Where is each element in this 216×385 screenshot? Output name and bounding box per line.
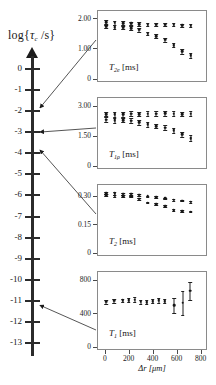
error-bar-cap [172,298,176,299]
y-tick-label-3: 0 [57,343,91,351]
y-tick-3 [93,313,97,314]
error-bar-cap [155,38,159,39]
log-axis-tick [25,110,40,112]
error-bar-cap [189,58,193,59]
log-axis-tick [25,194,40,196]
y-tick-2 [93,224,97,225]
data-point [113,113,116,116]
data-point [164,112,167,115]
error-bar-cap [180,116,184,117]
data-point [155,23,158,26]
log-axis-tick [25,173,40,175]
error-bar-cap [155,128,159,129]
log-axis-line [31,56,34,356]
log-axis-tick [25,342,40,344]
log-axis-tick [25,279,40,281]
panel-label-t2-subscript: 2 [114,241,117,247]
error-bar-cap [163,42,167,43]
error-bar-cap [155,116,159,117]
data-point [157,299,160,302]
error-bar-cap [151,303,155,304]
data-point [121,299,124,302]
y-tick-1 [93,136,97,137]
error-bar-cap [137,26,141,27]
data-point [138,113,141,116]
data-point [189,289,192,292]
data-point [164,24,167,27]
data-point [173,304,176,307]
data-point [189,210,192,213]
data-point [133,298,136,301]
y-tick-0 [93,79,97,80]
data-point [181,24,184,27]
data-point [189,200,192,203]
log-axis-tick-label: -8 [0,233,22,242]
data-point [189,137,192,140]
error-bar-cap [172,116,176,117]
error-bar-cap [104,304,108,305]
data-point [138,23,141,26]
data-point [181,301,184,304]
y-tick-label-3: 400 [57,310,91,318]
y-tick-label-0: 1.00 [57,45,91,53]
error-bar-cap [122,29,126,30]
log-axis-tick-label: -4 [0,148,22,157]
data-point [130,27,133,30]
data-point [122,22,125,25]
error-bar-cap [172,313,176,314]
log-axis-tick [25,68,40,70]
error-bar-cap [189,300,193,301]
log-axis-tick-label: -1 [0,85,22,94]
panel-label-t1-subscript: 1 [114,333,117,339]
error-bar-cap [163,26,167,27]
data-point [105,118,108,121]
panel-label-t2e-unit: [ms] [122,62,139,72]
log-axis-tick-label: -7 [0,212,22,221]
data-point [105,194,108,197]
data-point [147,32,150,35]
data-point [122,119,125,122]
log-axis-tick-label: -11 [0,296,22,305]
log-axis-tick [25,131,40,133]
log-axis-tick-label: -13 [0,338,22,347]
data-point [189,112,192,115]
data-point [172,112,175,115]
data-point [105,25,108,28]
error-bar-cap [129,116,133,117]
data-point [130,195,133,198]
x-tick-label: 800 [186,355,216,363]
data-point [155,196,158,199]
data-point [189,54,192,57]
error-bar-cap [189,27,193,28]
data-point [164,126,167,129]
y-tick-label-2: 0.30 [57,192,91,200]
data-point [113,26,116,29]
data-point [127,299,130,302]
error-bar-cap [189,141,193,142]
error-bar-cap [145,304,149,305]
log-axis-tick-label: -9 [0,254,22,263]
y-tick-2 [93,196,97,197]
data-point [130,120,133,123]
data-point [113,21,116,24]
error-bar-cap [146,35,150,36]
error-bar-cap [157,303,161,304]
log-axis-tick [25,300,40,302]
x-axis-caption: Δr [μm] [97,363,207,373]
error-bar-cap [146,127,150,128]
y-tick-1 [93,106,97,107]
log-axis-tick-label: -3 [0,127,22,136]
data-point [130,112,133,115]
data-point [138,121,141,124]
error-bar-cap [172,133,176,134]
y-tick-3 [93,280,97,281]
panel-label-t1-unit: [ms] [119,328,136,338]
data-point [181,133,184,136]
log-axis-tick-label: -6 [0,190,22,199]
data-point [147,195,150,198]
error-bar-cap [139,304,143,305]
data-point [105,113,108,116]
panel-t1: T1 [ms] [97,271,207,350]
error-bar-cap [129,30,133,31]
data-point [113,299,116,302]
